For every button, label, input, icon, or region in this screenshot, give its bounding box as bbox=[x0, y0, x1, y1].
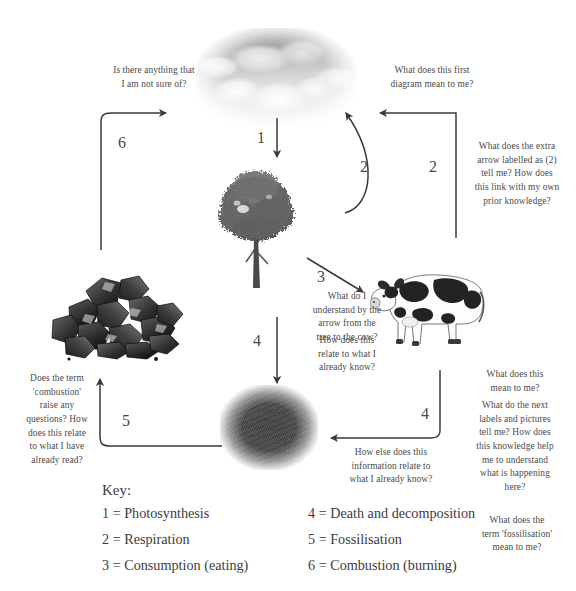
diagram-canvas: 1 2 2 3 4 4 5 6 Is there anything that I… bbox=[0, 0, 576, 591]
annotation-left-lower: Does the term 'combustion' raise any que… bbox=[18, 372, 96, 467]
annotation-top-right: What does this first diagram mean to me? bbox=[362, 64, 502, 91]
annotation-right-upper: What does the extra arrow labelled as (2… bbox=[462, 140, 572, 208]
annotation-right-mid-b: What do the next labels and pictures tel… bbox=[456, 399, 574, 494]
key-item-3: 3 = Consumption (eating) bbox=[102, 557, 276, 574]
annotation-top-left: Is there anything that I am not sure of? bbox=[84, 64, 224, 91]
arrow-label-5: 5 bbox=[122, 412, 130, 430]
arrow-2-respiration-outer bbox=[380, 113, 456, 238]
annotation-bottom-centre: How else does this information relate to… bbox=[330, 446, 452, 487]
annotation-centre-b: How does this relate to what I already k… bbox=[295, 334, 399, 375]
arrow-label-4-tree-soil: 4 bbox=[253, 332, 261, 350]
tree-image bbox=[213, 163, 299, 288]
arrow-3-consumption bbox=[307, 258, 363, 292]
key-item-6: 6 = Combustion (burning) bbox=[308, 557, 482, 574]
key-item-4: 4 = Death and decomposition bbox=[308, 505, 482, 522]
key-title: Key: bbox=[102, 482, 482, 499]
arrow-label-1: 1 bbox=[257, 129, 265, 147]
arrow-label-3: 3 bbox=[317, 268, 325, 286]
key-column-left: 1 = Photosynthesis 2 = Respiration 3 = C… bbox=[102, 505, 276, 574]
key-item-5: 5 = Fossilisation bbox=[308, 531, 482, 548]
key-column-right: 4 = Death and decomposition 5 = Fossilis… bbox=[308, 505, 482, 574]
arrow-label-6: 6 bbox=[118, 134, 126, 152]
soil-image bbox=[220, 385, 318, 470]
annotation-right-mid-a: What does this mean to me? bbox=[456, 368, 574, 395]
arrow-4-cow-to-soil bbox=[331, 370, 440, 438]
key-block: Key: 1 = Photosynthesis 2 = Respiration … bbox=[102, 482, 482, 574]
key-item-1: 1 = Photosynthesis bbox=[102, 505, 276, 522]
coal-image bbox=[45, 258, 190, 364]
arrow-label-2-inner: 2 bbox=[360, 158, 368, 176]
arrow-5-fossilisation bbox=[100, 379, 222, 446]
arrow-6-combustion bbox=[101, 113, 166, 250]
arrow-label-4-cow-soil: 4 bbox=[421, 405, 429, 423]
key-item-2: 2 = Respiration bbox=[102, 531, 276, 548]
arrow-label-2-outer: 2 bbox=[429, 158, 437, 176]
